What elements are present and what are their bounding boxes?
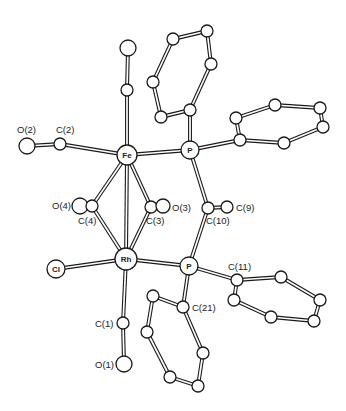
atom-a3 <box>147 76 159 88</box>
atom-o2 <box>19 138 35 154</box>
atom-otop <box>120 40 136 56</box>
atom-e4 <box>164 371 176 383</box>
atom-c9 <box>221 201 233 213</box>
atom-ctop <box>121 84 133 96</box>
atom-a6 <box>205 58 217 70</box>
atom-label-c11: C(11) <box>228 261 251 272</box>
atom-d4 <box>308 315 320 327</box>
atom-label-c9: C(9) <box>236 202 254 213</box>
atom-label-rh: Rh <box>121 255 132 264</box>
atom-label-c10: C(10) <box>206 215 230 226</box>
atom-e5 <box>192 380 204 392</box>
atom-b3 <box>269 99 281 111</box>
atom-label-p1: P <box>187 146 193 155</box>
atom-label-o4: O(4) <box>52 200 71 211</box>
atom-b4 <box>314 102 326 114</box>
atom-d6 <box>228 294 240 306</box>
atom-a1 <box>184 104 196 116</box>
atom-label-c21: C(21) <box>192 302 216 313</box>
atom-e2 <box>147 290 159 302</box>
atom-b2 <box>230 112 242 124</box>
atom-label-c1: C(1) <box>95 318 113 329</box>
atom-e3 <box>141 326 153 338</box>
atom-c21 <box>177 301 189 313</box>
atom-c11 <box>231 274 243 286</box>
atom-label-c4: C(4) <box>78 215 96 226</box>
atom-o3 <box>156 199 170 213</box>
atom-d2 <box>275 271 287 283</box>
atom-c2 <box>54 138 66 150</box>
atom-a5 <box>201 25 213 37</box>
atom-label-cl: Cl <box>52 265 60 274</box>
bond-E3-E4 <box>146 331 171 377</box>
atom-c1 <box>117 317 129 329</box>
atom-c4 <box>86 200 98 212</box>
atom-label-c3: C(3) <box>146 215 164 226</box>
atom-c3 <box>145 201 157 213</box>
atom-e6 <box>197 347 209 359</box>
atom-b5 <box>317 121 329 133</box>
atom-b1 <box>234 134 246 146</box>
bond-E6-C21 <box>182 306 205 353</box>
atom-label-o3: O(3) <box>172 202 191 213</box>
figure-caption <box>0 400 346 411</box>
atom-a4 <box>167 33 179 45</box>
atom-b6 <box>278 137 290 149</box>
atom-d5 <box>265 311 277 323</box>
atom-o1 <box>116 356 132 372</box>
atom-label-fe: Fe <box>122 151 132 160</box>
atom-a2 <box>155 111 167 123</box>
molecular-structure-diagram: FePRhPClC(2)O(2)O(4)C(4)C(3)O(3)C(10)C(9… <box>0 0 346 411</box>
atom-label-o1: O(1) <box>95 359 114 370</box>
bond-A6-A1 <box>189 63 213 110</box>
atom-d3 <box>314 294 326 306</box>
atom-label-p2: P <box>186 262 192 271</box>
bond-B3-B4 <box>275 104 320 110</box>
atom-label-c2: C(2) <box>56 124 74 135</box>
atom-label-o2: O(2) <box>17 124 36 135</box>
bond-Fe-Rh <box>125 155 129 259</box>
atom-c10 <box>202 202 214 214</box>
